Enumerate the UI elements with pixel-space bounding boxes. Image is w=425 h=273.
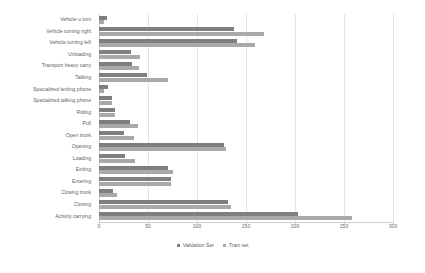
x-axis-tick-labels: 050100150200250300 — [99, 224, 393, 234]
category-label: Closing — [0, 199, 95, 211]
category-label: Pull — [0, 118, 95, 130]
bar-row — [99, 14, 393, 26]
bar-train — [99, 20, 104, 24]
x-tick-label: 0 — [98, 224, 101, 229]
bar-row — [99, 49, 393, 61]
category-label: Activity carrying — [0, 210, 95, 222]
bar-validation — [99, 177, 171, 181]
x-tick-label: 150 — [242, 224, 251, 229]
chart-legend: Validation SetTrain set — [0, 243, 425, 248]
bar-validation — [99, 143, 224, 147]
category-axis-labels: Vehicle u turnVehicle turning rightVehic… — [0, 14, 95, 222]
bar-validation — [99, 62, 132, 66]
category-label: Closing trunk — [0, 187, 95, 199]
validation-swatch — [177, 244, 181, 248]
bar-row — [99, 187, 393, 199]
bar-row — [99, 141, 393, 153]
bar-train — [99, 182, 171, 186]
bar-row — [99, 210, 393, 222]
x-tick-label: 300 — [389, 224, 398, 229]
bar-train — [99, 89, 104, 93]
category-label: Open trunk — [0, 129, 95, 141]
bar-row — [99, 153, 393, 165]
category-label: Vehicle turning right — [0, 26, 95, 38]
bar-train — [99, 55, 140, 59]
x-tick-label: 250 — [340, 224, 349, 229]
bar-train — [99, 216, 352, 220]
bar-train — [99, 78, 168, 82]
bar-validation — [99, 212, 298, 216]
bar-chart: Vehicle u turnVehicle turning rightVehic… — [0, 0, 425, 273]
bar-row — [99, 37, 393, 49]
legend-label: Train set — [229, 243, 249, 248]
bar-row — [99, 199, 393, 211]
category-label: Transport heavy carry — [0, 60, 95, 72]
bar-train — [99, 170, 173, 174]
bar-train — [99, 66, 139, 70]
category-label: Specialized texting phone — [0, 83, 95, 95]
bar-validation — [99, 73, 147, 77]
bar-train — [99, 193, 117, 197]
bar-train — [99, 147, 226, 151]
bar-validation — [99, 200, 228, 204]
bar-row — [99, 83, 393, 95]
plot-area — [99, 14, 393, 222]
category-label: Unloading — [0, 49, 95, 61]
bar-train — [99, 159, 135, 163]
bar-validation — [99, 108, 115, 112]
bar-row — [99, 95, 393, 107]
bar-row — [99, 26, 393, 38]
bar-validation — [99, 166, 168, 170]
bar-validation — [99, 154, 125, 158]
bar-train — [99, 205, 231, 209]
bar-row — [99, 176, 393, 188]
legend-label: Validation Set — [183, 243, 214, 248]
bar-train — [99, 124, 138, 128]
x-tick-label: 200 — [291, 224, 300, 229]
bar-validation — [99, 120, 130, 124]
bar-rows — [99, 14, 393, 222]
legend-item[interactable]: Validation Set — [177, 243, 214, 248]
bar-validation — [99, 50, 131, 54]
bar-validation — [99, 131, 124, 135]
bar-row — [99, 72, 393, 84]
bar-validation — [99, 189, 113, 193]
bar-validation — [99, 27, 234, 31]
category-label: Talking — [0, 72, 95, 84]
category-label: Opening — [0, 141, 95, 153]
category-label: Exiting — [0, 164, 95, 176]
bar-validation — [99, 85, 108, 89]
bar-train — [99, 136, 134, 140]
category-label: Entering — [0, 176, 95, 188]
bar-validation — [99, 96, 112, 100]
bar-row — [99, 118, 393, 130]
category-label: Loading — [0, 153, 95, 165]
category-label: Vehicle turning left — [0, 37, 95, 49]
category-label: Vehicle u turn — [0, 14, 95, 26]
bar-train — [99, 113, 115, 117]
bar-row — [99, 129, 393, 141]
x-tick-label: 100 — [193, 224, 202, 229]
gridline-300 — [393, 14, 394, 222]
bar-validation — [99, 39, 237, 43]
category-label: Riding — [0, 106, 95, 118]
bar-train — [99, 32, 264, 36]
bar-train — [99, 101, 112, 105]
bar-train — [99, 43, 255, 47]
bar-row — [99, 60, 393, 72]
category-label: Specialized talking phone — [0, 95, 95, 107]
bar-row — [99, 164, 393, 176]
x-tick-label: 50 — [145, 224, 151, 229]
train-swatch — [223, 244, 227, 248]
legend-item[interactable]: Train set — [223, 243, 249, 248]
bar-row — [99, 106, 393, 118]
bar-validation — [99, 16, 107, 20]
